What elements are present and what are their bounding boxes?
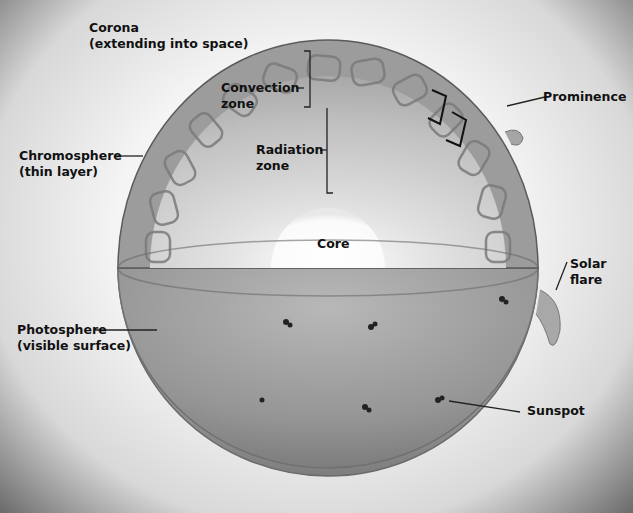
label-corona-line1: Corona xyxy=(89,20,249,36)
label-photosphere: Photosphere (visible surface) xyxy=(17,322,131,354)
label-solar-flare-line1: Solar xyxy=(570,256,606,272)
label-radiation-line2: zone xyxy=(256,158,323,174)
label-solar-flare: Solar flare xyxy=(570,256,606,288)
label-core: Core xyxy=(317,236,349,252)
cutaway-interior xyxy=(118,40,538,296)
label-corona: Corona (extending into space) xyxy=(89,20,249,52)
label-sunspot: Sunspot xyxy=(527,403,585,419)
sun-illustration xyxy=(0,0,633,513)
label-radiation-zone: Radiation zone xyxy=(256,142,323,174)
label-convection-line2: zone xyxy=(221,96,299,112)
sun-structure-diagram: Corona (extending into space) Convection… xyxy=(0,0,633,513)
label-convection-line1: Convection xyxy=(221,80,299,96)
label-core-line1: Core xyxy=(317,236,349,252)
label-photosphere-line2: (visible surface) xyxy=(17,338,131,354)
label-prominence-line1: Prominence xyxy=(543,89,626,105)
label-chromosphere-line1: Chromosphere xyxy=(19,148,122,164)
label-convection-zone: Convection zone xyxy=(221,80,299,112)
label-corona-line2: (extending into space) xyxy=(89,36,249,52)
label-photosphere-line1: Photosphere xyxy=(17,322,131,338)
prominence-shape xyxy=(505,130,523,145)
label-sunspot-line1: Sunspot xyxy=(527,403,585,419)
label-prominence: Prominence xyxy=(543,89,626,105)
label-chromosphere: Chromosphere (thin layer) xyxy=(19,148,122,180)
label-chromosphere-line2: (thin layer) xyxy=(19,164,122,180)
solar-flare-shape xyxy=(536,290,560,345)
label-solar-flare-line2: flare xyxy=(570,272,606,288)
label-radiation-line1: Radiation xyxy=(256,142,323,158)
